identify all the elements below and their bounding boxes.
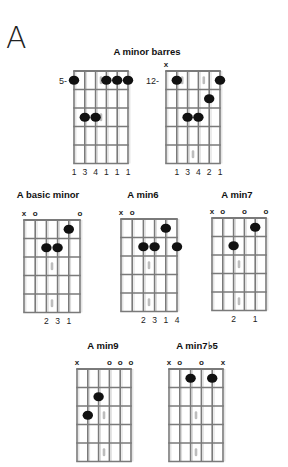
finger-dot [204, 94, 214, 103]
fret-inlay-marker [195, 448, 198, 456]
finger-number: 2 [141, 315, 146, 325]
finger-dot [64, 225, 74, 234]
open-string-icon: o [118, 358, 123, 367]
fret-inlay-marker [148, 261, 151, 269]
open-string-icon: o [130, 208, 135, 217]
finger-number: 1 [163, 315, 168, 325]
finger-dot [193, 113, 203, 122]
finger-number: 4 [93, 167, 98, 177]
finger-dot [41, 243, 51, 252]
finger-number: 4 [175, 315, 180, 325]
finger-dot [172, 76, 182, 85]
finger-number: 1 [72, 167, 77, 177]
finger-number: 2 [207, 167, 212, 177]
open-string-icon: o [78, 209, 83, 218]
chord-title-min9: A min9 [87, 340, 118, 351]
finger-number: 1 [218, 167, 223, 177]
finger-number: 1 [253, 314, 258, 324]
muted-string-icon: x [22, 209, 27, 218]
finger-dot [207, 374, 217, 383]
open-string-icon: o [33, 209, 38, 218]
open-string-icon: o [129, 358, 134, 367]
finger-dot [185, 374, 195, 383]
chord-title-min7b5: A min7♭5 [176, 340, 218, 351]
finger-dot [101, 76, 111, 85]
finger-dot [138, 242, 148, 251]
finger-number: 1 [66, 316, 71, 326]
fret-inlay-marker [195, 411, 198, 419]
finger-dot [80, 113, 90, 122]
fret-inlay-marker [148, 298, 151, 306]
chord-title-min7: A min7 [221, 189, 252, 200]
fret-inlay-marker [103, 448, 106, 456]
muted-string-icon: x [119, 208, 124, 217]
muted-string-icon: x [75, 358, 80, 367]
finger-dot [149, 242, 159, 251]
finger-number: 1 [126, 167, 131, 177]
finger-number: 3 [152, 315, 157, 325]
fret-inlay-marker [103, 411, 106, 419]
chord-diagram-basic-minor: xoo231 [2, 206, 102, 339]
fret-inlay-marker [238, 260, 241, 268]
fret-inlay-marker [203, 76, 206, 84]
finger-number: 3 [82, 167, 87, 177]
chord-title-basic-minor: A basic minor [17, 189, 79, 200]
finger-number: 1 [115, 167, 120, 177]
finger-number: 1 [174, 167, 179, 177]
section-letter: A [6, 20, 27, 55]
chord-diagram-min7: xooo21 [190, 204, 288, 337]
fret-inlay-marker [238, 297, 241, 305]
finger-number: 2 [231, 314, 236, 324]
finger-dot [161, 224, 171, 233]
muted-string-icon: x [210, 207, 215, 216]
open-string-icon: o [242, 207, 247, 216]
finger-dot [182, 113, 192, 122]
finger-number: 4 [196, 167, 201, 177]
finger-dot [69, 76, 79, 85]
fret-position-label: 12- [146, 76, 159, 86]
chord-diagram-min7b5: xoox [147, 355, 245, 467]
finger-dot [112, 76, 122, 85]
finger-dot [123, 76, 133, 85]
chord-diagram-barre-12: x12-13421 [144, 57, 242, 190]
chord-title-min6: A min6 [127, 189, 158, 200]
finger-dot [172, 242, 182, 251]
finger-dot [228, 241, 238, 250]
finger-dot [52, 243, 62, 252]
chord-diagram-min9: xooo [55, 355, 153, 467]
finger-dot [83, 411, 93, 420]
finger-dot [215, 76, 225, 85]
muted-string-icon: x [167, 358, 172, 367]
fret-position-label: 5- [59, 76, 67, 86]
finger-number: 3 [55, 316, 60, 326]
muted-string-icon: x [164, 60, 169, 69]
group-title-minor-barres: A minor barres [113, 46, 180, 57]
finger-dot [93, 392, 103, 401]
finger-number: 2 [44, 316, 49, 326]
finger-dot [250, 223, 260, 232]
finger-number: 3 [185, 167, 190, 177]
fret-inlay-marker [192, 150, 195, 158]
open-string-icon: o [177, 358, 182, 367]
open-string-icon: o [107, 358, 112, 367]
open-string-icon: o [220, 207, 225, 216]
fret-inlay-marker [51, 262, 54, 270]
chord-diagram-min6: xo2314 [99, 205, 199, 338]
open-string-icon: o [264, 207, 269, 216]
chord-diagram-barre-5: 5-134111 [52, 57, 150, 190]
muted-string-icon: x [221, 358, 226, 367]
open-string-icon: o [199, 358, 204, 367]
finger-number: 1 [104, 167, 109, 177]
fret-inlay-marker [51, 299, 54, 307]
finger-dot [90, 113, 100, 122]
